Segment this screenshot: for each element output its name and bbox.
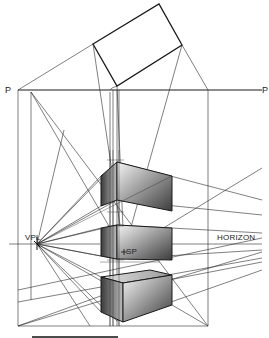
label-p-left: P: [5, 86, 11, 95]
box-top: [101, 162, 172, 211]
label-vpl: VPL: [25, 234, 41, 242]
drawing-svg: [0, 0, 269, 338]
plan-view: [93, 4, 182, 86]
label-sp: SP: [126, 248, 137, 256]
label-p-right: P: [262, 86, 268, 95]
label-horizon: HORIZON: [217, 234, 255, 242]
perspective-drawing: P P VPL SP HORIZON: [0, 0, 269, 338]
box-bottom: [101, 270, 172, 322]
